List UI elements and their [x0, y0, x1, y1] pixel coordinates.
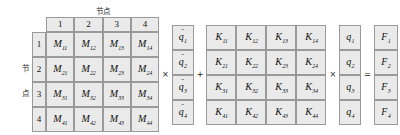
mass-cell-24-sub: 24: [147, 70, 153, 76]
force-cell-3: F3: [374, 75, 398, 100]
side-axis-label-char-2: 点: [22, 90, 29, 98]
mass-cell-34-base: M: [138, 89, 146, 99]
mass-cell-33-base: M: [110, 89, 118, 99]
row-header-4: 4: [32, 107, 46, 132]
stiffness-cell-14: K14: [296, 25, 326, 50]
header-corner: [0, 17, 46, 32]
matrix-row: 点 3 M31 M32 M33 M34: [0, 82, 159, 107]
mass-cell-43: M43: [103, 107, 131, 132]
mass-cell-24: M24: [131, 57, 159, 82]
stiffness-cell-12-base: K: [245, 32, 252, 42]
stiffness-cell-24-base: K: [305, 57, 312, 67]
stiffness-cell-21-base: K: [215, 57, 222, 67]
force-cell-3-sub: 3: [388, 88, 391, 94]
stiffness-cell-12: K12: [236, 25, 266, 50]
column-header-2: 2: [74, 17, 102, 32]
acceleration-cell-2: ¨q2: [172, 50, 194, 75]
stiffness-cell-23: K23: [266, 50, 296, 75]
stiffness-cell-33: K33: [266, 75, 296, 100]
stiffness-cell-31-base: K: [215, 82, 222, 92]
side-axis-label-char-1: 节: [22, 65, 29, 73]
stiffness-cell-22-base: K: [245, 57, 252, 67]
force-cell-4-sub: 4: [388, 113, 391, 119]
stiffness-cell-22-sub: 22: [252, 63, 258, 69]
stiffness-cell-24-sub: 24: [312, 63, 318, 69]
displacement-cell-1-base: q: [346, 32, 351, 42]
stiffness-cell-41: K41: [206, 100, 236, 125]
stiffness-cell-32-base: K: [245, 82, 252, 92]
stiffness-cell-34-sub: 34: [312, 88, 318, 94]
mass-cell-21-base: M: [53, 64, 61, 74]
mass-cell-23: M23: [103, 57, 131, 82]
stiffness-cell-34-base: K: [305, 82, 312, 92]
mass-cell-12-sub: 12: [90, 45, 96, 51]
top-axis-label: 节点: [46, 8, 159, 17]
stiffness-cell-43-base: K: [275, 107, 282, 117]
mass-cell-22: M22: [74, 57, 102, 82]
mass-cell-41-base: M: [53, 114, 61, 124]
acceleration-cell-1-sub: 1: [184, 38, 187, 44]
mass-cell-12: M12: [74, 32, 102, 57]
mass-cell-44: M44: [131, 107, 159, 132]
stiffness-cell-14-sub: 14: [312, 38, 318, 44]
multiply-operator-1: ×: [159, 70, 172, 79]
displacement-cell-1-sub: 1: [352, 38, 355, 44]
force-cell-1-base: F: [381, 32, 387, 42]
mass-cell-33-sub: 33: [118, 95, 124, 101]
stiffness-cell-31: K31: [206, 75, 236, 100]
mass-cell-43-sub: 43: [118, 120, 124, 126]
mass-cell-22-sub: 22: [90, 70, 96, 76]
stiffness-cell-11-sub: 11: [222, 38, 227, 44]
mass-cell-13-sub: 13: [118, 45, 124, 51]
acceleration-cell-3-sub: 3: [184, 88, 187, 94]
mass-cell-23-base: M: [110, 64, 118, 74]
displacement-cell-2-sub: 2: [352, 63, 355, 69]
mass-cell-34: M34: [131, 82, 159, 107]
stiffness-cell-21: K21: [206, 50, 236, 75]
mass-cell-44-base: M: [138, 114, 146, 124]
acceleration-cell-1: ¨q1: [172, 25, 194, 50]
multiply-operator-2: ×: [326, 70, 339, 79]
top-axis-label-row: 节点: [0, 4, 159, 17]
force-cell-2-base: F: [381, 57, 387, 67]
mass-cell-31: M31: [46, 82, 74, 107]
displacement-cell-3-sub: 3: [352, 88, 355, 94]
mass-cell-21-sub: 21: [62, 70, 68, 76]
displacement-cell-1: q1: [339, 25, 361, 50]
column-header-1: 1: [46, 17, 74, 32]
mass-cell-14-base: M: [138, 39, 146, 49]
matrix-row: 4 M41 M42 M43 M44: [0, 107, 159, 132]
mass-cell-42-base: M: [81, 114, 89, 124]
column-header-row: 1 2 3 4: [0, 17, 159, 32]
double-dot-accent-icon: ¨: [181, 77, 184, 86]
equals-operator: =: [361, 70, 374, 79]
displacement-cell-4: q4: [339, 100, 361, 125]
column-header-4: 4: [131, 17, 159, 32]
mass-cell-33: M33: [103, 82, 131, 107]
double-dot-accent-icon: ¨: [181, 52, 184, 61]
matrix-row: K31 K32 K33 K34: [206, 75, 326, 100]
acceleration-vector: ¨q1 ¨q2 ¨q3 ¨q4: [172, 25, 194, 125]
stiffness-cell-41-sub: 41: [222, 113, 228, 119]
side-label-slot: [0, 107, 32, 132]
mass-cell-21: M21: [46, 57, 74, 82]
displacement-cell-4-sub: 4: [352, 113, 355, 119]
stiffness-cell-42-base: K: [245, 107, 252, 117]
mass-cell-11-sub: 11: [62, 45, 67, 51]
stiffness-cell-32-sub: 32: [252, 88, 258, 94]
mass-cell-32-sub: 32: [90, 95, 96, 101]
acceleration-cell-3: ¨q3: [172, 75, 194, 100]
plus-operator: +: [194, 70, 207, 79]
stiffness-cell-44-base: K: [305, 107, 312, 117]
stiffness-cell-14-base: K: [305, 32, 312, 42]
side-label-slot: [0, 32, 32, 57]
stiffness-cell-13: K13: [266, 25, 296, 50]
mass-cell-32-base: M: [81, 89, 89, 99]
matrix-equation-diagram: 节点 1 2 3 4 1 M11 M12 M13 M14 节 2 M2: [0, 0, 400, 135]
mass-cell-13: M13: [103, 32, 131, 57]
stiffness-cell-22: K22: [236, 50, 266, 75]
stiffness-cell-42: K42: [236, 100, 266, 125]
mass-cell-31-base: M: [53, 89, 61, 99]
force-cell-2-sub: 2: [388, 63, 391, 69]
mass-cell-31-sub: 31: [62, 95, 68, 101]
